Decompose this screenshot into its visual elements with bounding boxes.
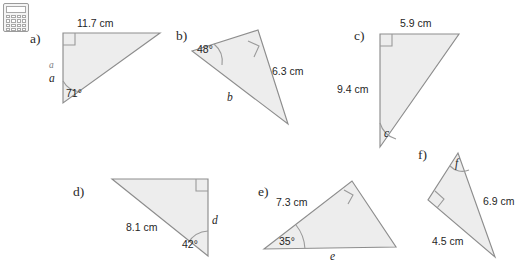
figure-b-letter: b) (176, 28, 187, 43)
figure-c-letter: c) (354, 28, 365, 43)
figure-a-letter: a) (30, 31, 41, 46)
figure-a-angle-label: 71° (66, 87, 82, 99)
figure-d: d) 8.1 cm 42° d (73, 179, 218, 256)
figure-e-upper-side-label: 7.3 cm (276, 196, 308, 208)
figure-b-angle-label: 48° (197, 43, 213, 55)
figure-f-lower-left-side-label: 4.5 cm (432, 235, 464, 247)
figure-e: e) 7.3 cm 35° e (258, 181, 396, 262)
worksheet-page: a) 11.7 cm 71° a a b) 48° 6.3 cm b (0, 0, 532, 275)
figure-d-unknown-side-label: d (212, 214, 218, 226)
figure-d-hypotenuse-label: 8.1 cm (126, 221, 158, 233)
figure-e-unknown-side-label: e (330, 250, 335, 262)
figure-f: f) f 6.9 cm 4.5 cm (418, 147, 515, 257)
figure-a-unknown-side-ghost-label: a (49, 60, 54, 70)
figure-b: b) 48° 6.3 cm b (176, 28, 304, 124)
figure-c: c) 5.9 cm 9.4 cm c (337, 17, 459, 147)
figure-c-triangle (380, 34, 459, 147)
figure-f-right-side-label: 6.9 cm (483, 195, 515, 207)
figure-d-letter: d) (73, 184, 84, 199)
figure-e-letter: e) (258, 184, 269, 199)
figure-d-angle-label: 42° (182, 238, 198, 250)
figure-c-left-side-label: 9.4 cm (337, 83, 369, 95)
figure-b-unknown-side-label: b (227, 91, 233, 103)
figure-e-angle-label: 35° (279, 235, 295, 247)
figure-a: a) 11.7 cm 71° a a (30, 17, 160, 103)
figure-c-top-side-label: 5.9 cm (400, 17, 432, 29)
figure-b-right-side-label: 6.3 cm (272, 65, 304, 77)
figure-a-top-side-label: 11.7 cm (77, 17, 114, 29)
figure-c-unknown-angle-label: c (384, 127, 389, 139)
figure-a-unknown-side-label: a (49, 72, 55, 84)
figures-canvas: a) 11.7 cm 71° a a b) 48° 6.3 cm b (0, 0, 532, 275)
figure-f-letter: f) (418, 147, 427, 162)
